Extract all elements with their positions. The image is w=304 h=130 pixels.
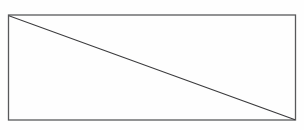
diagonal-line (10, 16, 295, 120)
figure-canvas (0, 0, 304, 130)
line-drawing-svg (0, 0, 304, 130)
